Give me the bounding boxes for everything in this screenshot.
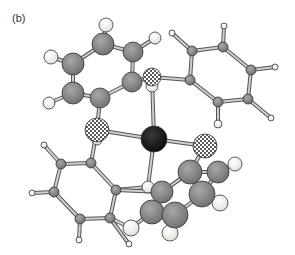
carbon-atom [213,97,223,107]
carbon-atom [56,159,66,169]
carbon-atom [92,33,114,55]
carbon-atom [75,214,85,224]
carbon-atom [243,94,253,104]
hydrogen-atom [169,30,175,36]
bond [54,192,80,219]
carbon-atom [178,160,202,184]
hydrogen-atom [123,220,139,236]
carbon-atom [140,200,164,224]
carbon-atom [246,65,256,75]
carbon-atom [218,42,228,52]
hydrogen-atom [268,115,274,121]
hydrogen-atom [29,190,35,196]
carbon-atom [122,72,142,92]
hydrogen-atom [76,237,82,243]
carbon-atom [90,88,110,108]
carbon-atom [162,202,188,228]
hydrogen-atom [221,23,227,29]
bond [223,47,251,70]
carbon-atom [207,161,229,183]
hydrogen-atom [272,64,278,70]
hydrogen-atom [126,241,132,247]
molecule-diagram [0,0,295,255]
hydrogen-atom [44,50,58,64]
carbon-atom [189,181,215,207]
heteroatom [85,118,109,142]
carbon-atom [123,42,143,62]
metal-atom [141,126,167,152]
hydrogen-atom [41,142,47,148]
carbon-atom [62,82,84,104]
atoms-layer [29,18,278,247]
hydrogen-atom [99,18,113,32]
hydrogen-atom [214,120,222,128]
carbon-atom [62,53,84,75]
heteroatom [193,134,217,158]
carbon-atom [111,185,121,195]
carbon-atom [187,46,197,56]
bond [91,163,116,190]
hydrogen-atom [43,97,55,109]
carbon-atom [49,187,59,197]
carbon-atom [86,158,96,168]
carbon-atom [185,75,195,85]
carbon-atom [105,213,115,223]
carbon-atom [151,181,173,203]
heteroatom [143,68,161,86]
hydrogen-atom [149,32,161,44]
hydrogen-atom [228,157,242,171]
